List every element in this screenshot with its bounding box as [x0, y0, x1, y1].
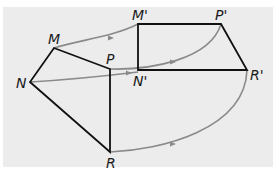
arrowhead-icon — [126, 71, 132, 76]
label-n-prime: N' — [133, 73, 147, 89]
label-m: M — [48, 31, 60, 47]
arrow-r-to-r-prime — [110, 70, 247, 152]
original-polygon — [30, 48, 110, 152]
label-r: R — [106, 155, 116, 171]
image-polygon — [138, 24, 247, 70]
label-n: N — [16, 75, 27, 91]
arrow-n-to-n-prime — [30, 72, 138, 82]
label-p-prime: P' — [215, 7, 227, 23]
arrow-m-to-m-prime — [54, 24, 138, 48]
diagram-stage: M P R N M' P' R' N' — [0, 0, 279, 175]
vertex-labels: M P R N M' P' R' N' — [16, 7, 264, 171]
label-p: P — [106, 51, 115, 67]
label-m-prime: M' — [132, 7, 148, 23]
arrow-p-to-p-prime — [110, 24, 221, 69]
diagram-canvas: M P R N M' P' R' N' — [0, 0, 279, 175]
arrowhead-icon — [108, 36, 114, 41]
label-r-prime: R' — [250, 67, 264, 83]
